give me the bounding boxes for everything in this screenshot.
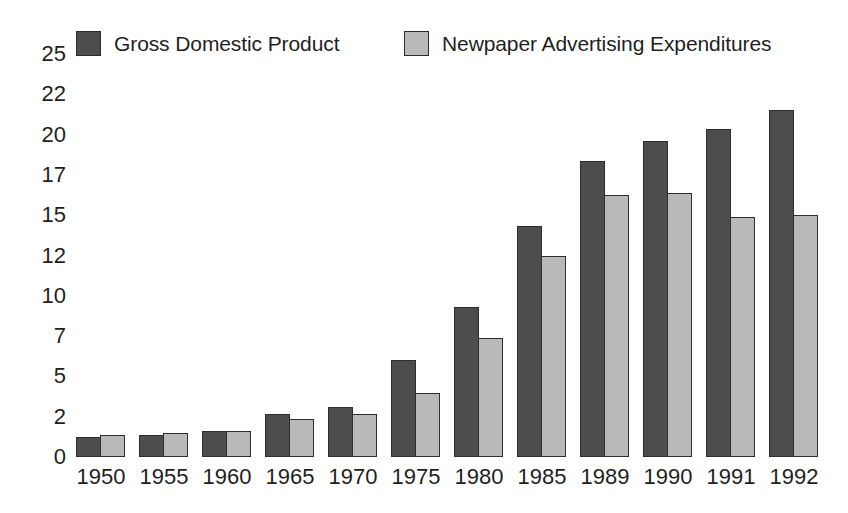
x-axis-tick-label: 1970 <box>327 465 379 489</box>
bar-newspaper-1975[interactable] <box>415 393 440 457</box>
bar-gdp-1965[interactable] <box>265 414 290 457</box>
x-axis-tick-label: 1989 <box>579 465 631 489</box>
bar-gdp-1980[interactable] <box>454 307 479 457</box>
x-axis-tick-label: 1991 <box>705 465 757 489</box>
bar-newspaper-1960[interactable] <box>226 431 251 457</box>
x-axis-tick-label: 1960 <box>201 465 253 489</box>
bar-gdp-1992[interactable] <box>769 110 794 457</box>
bar-newspaper-1955[interactable] <box>163 433 188 457</box>
bar-chart: Gross Domestic Product Newpaper Advertis… <box>0 0 848 513</box>
bar-gdp-1975[interactable] <box>391 360 416 457</box>
bar-gdp-1950[interactable] <box>76 437 101 457</box>
bar-newspaper-1965[interactable] <box>289 419 314 457</box>
bar-gdp-1985[interactable] <box>517 226 542 457</box>
x-axis-tick-label: 1955 <box>138 465 190 489</box>
bar-newspaper-1970[interactable] <box>352 414 377 457</box>
x-axis-tick-label: 1975 <box>390 465 442 489</box>
x-axis-tick-label: 1980 <box>453 465 505 489</box>
bar-newspaper-1991[interactable] <box>730 217 755 457</box>
bar-newspaper-1992[interactable] <box>793 215 818 457</box>
x-axis-tick-label: 1950 <box>75 465 127 489</box>
bar-gdp-1989[interactable] <box>580 161 605 457</box>
bar-gdp-1991[interactable] <box>706 129 731 457</box>
x-axis-tick-label: 1990 <box>642 465 694 489</box>
bar-newspaper-1985[interactable] <box>541 256 566 458</box>
bar-newspaper-1950[interactable] <box>100 435 125 457</box>
x-axis-tick-label: 1992 <box>768 465 820 489</box>
x-axis-tick-label: 1985 <box>516 465 568 489</box>
bar-gdp-1960[interactable] <box>202 431 227 457</box>
bar-newspaper-1980[interactable] <box>478 338 503 457</box>
bar-gdp-1990[interactable] <box>643 141 668 457</box>
x-axis-tick-label: 1965 <box>264 465 316 489</box>
bar-newspaper-1989[interactable] <box>604 195 629 457</box>
bar-newspaper-1990[interactable] <box>667 193 692 457</box>
bar-gdp-1970[interactable] <box>328 407 353 457</box>
bar-gdp-1955[interactable] <box>139 435 164 457</box>
